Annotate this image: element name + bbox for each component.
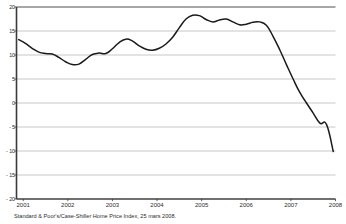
y-tick-label-wrap: 10 bbox=[0, 52, 15, 58]
y-tick-label: 5 bbox=[1, 76, 15, 82]
y-tick-label: - 10 bbox=[1, 148, 15, 154]
line-chart-canvas bbox=[0, 0, 346, 224]
y-tick-label-wrap: 20 bbox=[0, 4, 15, 10]
data-series-line bbox=[19, 15, 334, 152]
source-note: Standard & Poor's/Case-Shiller Home Pric… bbox=[14, 212, 176, 220]
y-tick-label: 0 bbox=[1, 100, 15, 106]
y-tick-label: 10 bbox=[1, 52, 15, 58]
y-tick-label: 15 bbox=[1, 28, 15, 34]
y-tick-label: - 5 bbox=[1, 124, 15, 130]
y-tick-label-wrap: 5 bbox=[0, 76, 15, 82]
x-tick-label: 2008 bbox=[323, 201, 346, 209]
chart-figure: 20151050- 5- 10- 15- 20 2001200220032004… bbox=[0, 0, 346, 224]
y-tick-label-wrap: - 15 bbox=[0, 172, 15, 178]
x-tick-label: 2003 bbox=[99, 201, 125, 209]
x-tick-label: 2005 bbox=[189, 201, 215, 209]
gridlines bbox=[17, 7, 336, 199]
y-tick-label-wrap: - 5 bbox=[0, 124, 15, 130]
y-tick-label: - 15 bbox=[1, 172, 15, 178]
y-tick-label-wrap: 15 bbox=[0, 28, 15, 34]
y-tick-label: 20 bbox=[1, 4, 15, 10]
x-tick-label: 2006 bbox=[233, 201, 259, 209]
y-tick-label-wrap: 0 bbox=[0, 100, 15, 106]
y-tick-label-wrap: - 10 bbox=[0, 148, 15, 154]
x-tick-label: 2007 bbox=[278, 201, 304, 209]
x-tick-label: 2001 bbox=[10, 201, 36, 209]
x-tick-label: 2004 bbox=[144, 201, 170, 209]
x-tick-label: 2002 bbox=[55, 201, 81, 209]
